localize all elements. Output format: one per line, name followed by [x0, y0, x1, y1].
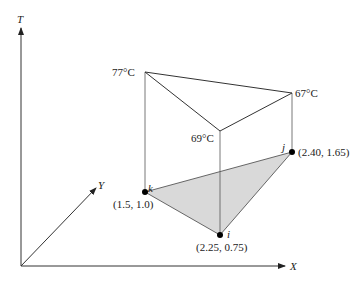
temperature-label-i: 69°C — [191, 133, 214, 144]
coords-label-i: (2.25, 0.75) — [196, 242, 247, 253]
coords-label-k: (1.5, 1.0) — [113, 199, 153, 210]
y-axis — [21, 188, 96, 266]
coords-label-j: (2.40, 1.65) — [298, 147, 349, 158]
node-label-j: j — [282, 142, 285, 153]
temperature-label-k: 77°C — [112, 67, 135, 78]
element-triangle — [145, 152, 292, 235]
temperature-label-j: 67°C — [295, 88, 318, 99]
y-axis-label: Y — [98, 180, 104, 191]
node-label-k: k — [148, 183, 153, 194]
node-label-i: i — [227, 229, 230, 240]
node-i — [217, 232, 223, 238]
temperature-surface — [145, 72, 292, 131]
diagram-canvas — [0, 0, 357, 281]
t-axis-label: T — [17, 14, 23, 25]
x-axis-label: X — [290, 261, 297, 272]
node-j — [289, 149, 295, 155]
